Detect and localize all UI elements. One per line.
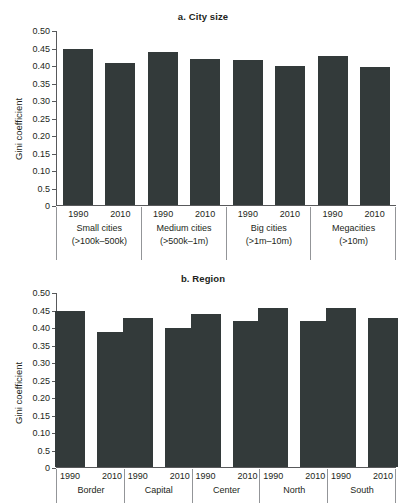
bar xyxy=(275,66,305,205)
year-tick-label: 2010 xyxy=(184,209,226,219)
year-tick-label: 1990 xyxy=(227,209,269,219)
group-label-line1: South xyxy=(350,485,374,495)
group-label-line1: North xyxy=(283,485,305,495)
bar xyxy=(63,49,93,205)
group-label: North xyxy=(260,484,328,497)
panel-b-category-axis: 1990201019902010199020101990201019902010… xyxy=(56,469,396,503)
panel-b-x-axis-line xyxy=(56,467,396,468)
y-tick-label: 0.25 xyxy=(32,114,56,124)
group-label: Center xyxy=(193,484,261,497)
bar xyxy=(190,59,220,205)
y-tick-label: 0.15 xyxy=(32,411,56,421)
group-label-line1: Center xyxy=(213,485,240,495)
group-separator xyxy=(192,469,193,503)
y-tick-label: 0.5 xyxy=(37,446,56,456)
year-tick-label: 1990 xyxy=(185,471,227,481)
group-label-line1: Medium cities xyxy=(157,223,212,233)
y-tick-label: 0.50 xyxy=(32,288,56,298)
panel-b-y-axis-label: Gini coefficient xyxy=(13,362,24,424)
y-tick-label: 0.45 xyxy=(32,306,56,316)
year-tick-label: 2010 xyxy=(354,209,396,219)
year-tick-label: 2010 xyxy=(269,209,311,219)
group-separator xyxy=(141,207,142,260)
y-tick-label: 0.10 xyxy=(32,428,56,438)
group-separator xyxy=(56,207,57,260)
group-separator xyxy=(395,469,396,503)
year-tick-label: 1990 xyxy=(117,471,159,481)
bar xyxy=(148,52,178,205)
group-label: Small cities(>100k–500k) xyxy=(57,222,142,247)
panel-b-year-labels: 1990201019902010199020101990201019902010 xyxy=(57,469,396,484)
panel-a-category-axis: 19902010199020101990201019902010 Small c… xyxy=(56,207,396,260)
year-tick-label: 1990 xyxy=(312,209,354,219)
group-label: Capital xyxy=(125,484,193,497)
bar xyxy=(258,308,288,467)
bar xyxy=(191,314,221,467)
group-label-line1: Small cities xyxy=(77,223,123,233)
group-separator xyxy=(56,469,57,503)
group-separator xyxy=(395,207,396,260)
group-label: South xyxy=(328,484,396,497)
group-separator xyxy=(124,469,125,503)
group-label: Medium cities(>500k–1m) xyxy=(142,222,227,247)
y-tick-label: 0.20 xyxy=(32,131,56,141)
y-tick-label: 0.45 xyxy=(32,44,56,54)
figure-gini-coefficient-bar-charts: a. City size Gini coefficient 0.500.450.… xyxy=(0,0,406,503)
group-label-line2: (>10m) xyxy=(311,235,396,248)
chart-panel-city-size: a. City size Gini coefficient 0.500.450.… xyxy=(0,0,406,262)
panel-a-x-axis-line xyxy=(56,205,396,206)
bar xyxy=(105,63,135,205)
group-label-line1: Capital xyxy=(145,485,173,495)
group-label: Big cities(>1m–10m) xyxy=(227,222,312,247)
group-label: Border xyxy=(57,484,125,497)
year-tick-label: 2010 xyxy=(99,209,141,219)
group-label-line2: (>100k–500k) xyxy=(57,235,142,248)
panel-a-y-axis-label: Gini coefficient xyxy=(13,98,24,160)
group-label-line1: Big cities xyxy=(251,223,287,233)
group-separator xyxy=(327,469,328,503)
y-tick-label: 0.20 xyxy=(32,393,56,403)
y-tick-label: 0.30 xyxy=(32,358,56,368)
year-tick-label: 1990 xyxy=(57,209,99,219)
bar xyxy=(318,56,348,205)
y-tick-label: 0 xyxy=(45,201,56,211)
panel-b-title: b. Region xyxy=(0,273,406,284)
y-tick-label: 0.35 xyxy=(32,79,56,89)
group-separator xyxy=(310,207,311,260)
year-tick-label: 2010 xyxy=(362,471,404,481)
chart-panel-region: b. Region Gini coefficient 0.500.450.400… xyxy=(0,262,406,503)
group-label-line2: (>1m–10m) xyxy=(227,235,312,248)
y-tick-label: 0.40 xyxy=(32,323,56,333)
y-tick-label: 0.25 xyxy=(32,376,56,386)
y-tick-label: 0.30 xyxy=(32,96,56,106)
year-tick-label: 1990 xyxy=(142,209,184,219)
group-label-line2: (>500k–1m) xyxy=(142,235,227,248)
panel-b-bars xyxy=(57,293,396,467)
bar xyxy=(368,318,398,467)
bar xyxy=(233,60,263,205)
y-tick-label: 0.35 xyxy=(32,341,56,351)
bar xyxy=(123,318,153,467)
panel-b-plot-area: 0.500.450.400.350.300.250.200.150.100.50 xyxy=(56,293,396,468)
panel-a-plot-area: 0.500.450.400.350.300.250.200.150.100.50 xyxy=(56,31,396,206)
group-label-line1: Megacities xyxy=(332,223,375,233)
y-tick-label: 0.5 xyxy=(37,184,56,194)
y-tick-label: 0.15 xyxy=(32,149,56,159)
panel-a-title: a. City size xyxy=(0,11,406,22)
panel-a-bars xyxy=(57,31,396,205)
group-label-line1: Border xyxy=(77,485,104,495)
group-separator xyxy=(226,207,227,260)
y-tick-label: 0.50 xyxy=(32,26,56,36)
group-label: Megacities(>10m) xyxy=(311,222,396,247)
bar xyxy=(360,67,390,206)
group-separator xyxy=(259,469,260,503)
bar xyxy=(55,311,85,467)
bar xyxy=(326,308,356,467)
y-tick-label: 0.10 xyxy=(32,166,56,176)
y-tick-label: 0.40 xyxy=(32,61,56,71)
